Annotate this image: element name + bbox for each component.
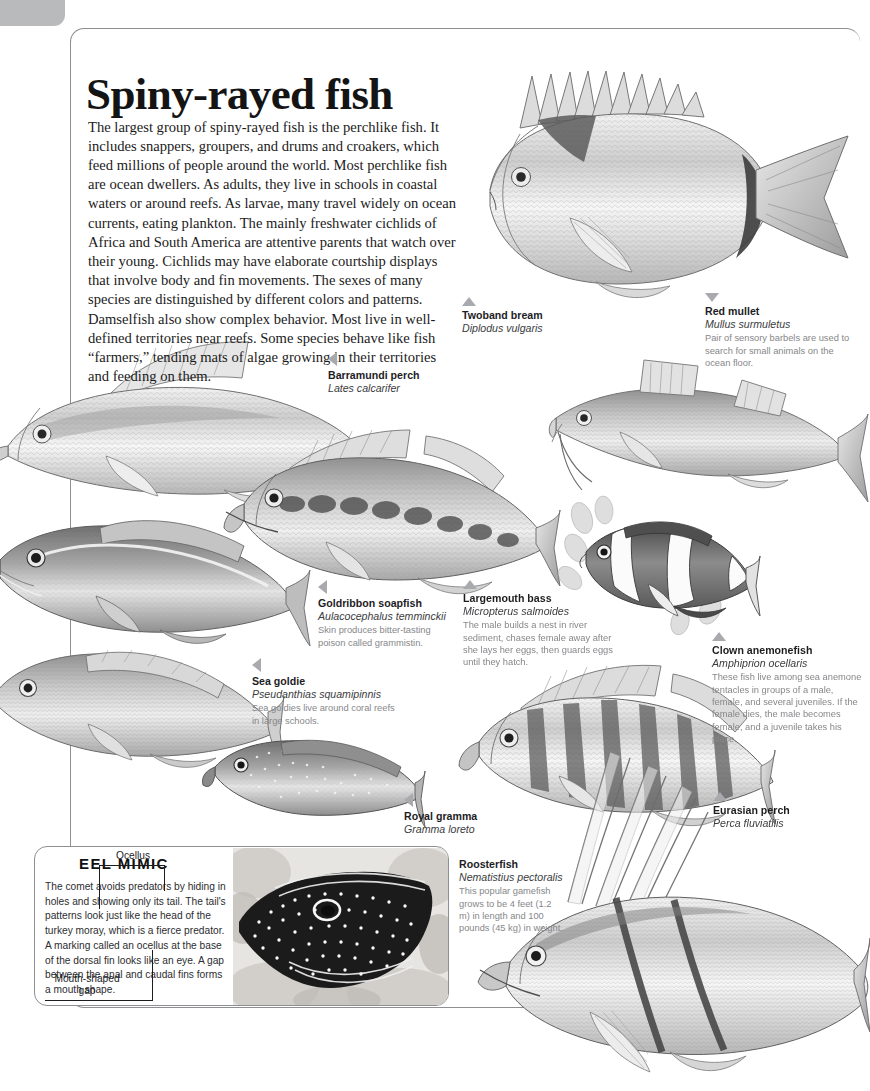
caption-common-name: Barramundi perch <box>328 369 478 382</box>
annotation-mouth-gap-label: Mouth-shaped gap <box>45 973 129 997</box>
caption-latin-name: Gramma loreto <box>404 823 554 836</box>
caption-common-name: Clown anemonefish <box>712 644 862 657</box>
caption-note: This popular gamefish grows to be 4 feet… <box>459 885 564 934</box>
caption-note: These fish live among sea anemone tentac… <box>712 671 862 745</box>
caption-arrow-up-icon <box>712 632 726 641</box>
comet-fish-photo <box>233 848 449 1006</box>
caption-arrow-up-icon <box>462 297 476 306</box>
caption-latin-name: Mullus surmuletus <box>705 318 855 331</box>
caption-royal-gramma: Royal gramma Gramma loreto <box>404 793 554 836</box>
caption-goldribbon-soapfish: Goldribbon soapfish Aulacocephalus temmi… <box>318 580 453 649</box>
caption-common-name: Largemouth bass <box>463 592 613 605</box>
caption-common-name: Goldribbon soapfish <box>318 597 453 610</box>
caption-common-name: Eurasian perch <box>713 804 863 817</box>
eel-mimic-sidebar: EEL MIMIC The comet avoids predators by … <box>34 846 449 1006</box>
annotation-ocellus-leader-h <box>99 865 165 866</box>
caption-common-name: Royal gramma <box>404 810 554 823</box>
caption-sea-goldie: Sea goldie Pseudanthias squamipinnis Sea… <box>252 658 402 727</box>
caption-red-mullet: Red mullet Mullus surmuletus Pair of sen… <box>705 293 855 369</box>
caption-note: Pair of sensory barbels are used to sear… <box>705 332 855 369</box>
caption-latin-name: Aulacocephalus temminckii <box>318 610 453 623</box>
caption-latin-name: Nematistius pectoralis <box>459 871 564 884</box>
caption-arrow-left-icon <box>328 352 337 366</box>
page-corner-tab <box>0 0 65 26</box>
caption-twoband-bream: Twoband bream Diplodus vulgaris <box>462 297 627 335</box>
caption-eurasian-perch: Eurasian perch Perca fluviatilis <box>713 792 863 830</box>
caption-arrow-down-icon <box>705 293 719 302</box>
caption-barramundi-perch: Barramundi perch Lates calcarifer <box>328 352 478 395</box>
annotation-ocellus-leader-v2 <box>164 865 165 891</box>
caption-common-name: Twoband bream <box>462 309 627 322</box>
caption-clown-anemonefish: Clown anemonefish Amphiprion ocellaris T… <box>712 632 862 745</box>
caption-largemouth-bass: Largemouth bass Micropterus salmoides Th… <box>463 580 613 669</box>
caption-latin-name: Micropterus salmoides <box>463 605 613 618</box>
annotation-mouth-gap-leader-v <box>152 950 153 1001</box>
caption-note: Sea goldies live around coral reefs in l… <box>252 702 402 727</box>
intro-paragraph: The largest group of spiny-rayed fish is… <box>88 118 460 387</box>
caption-arrow-up-icon <box>713 792 727 801</box>
caption-latin-name: Lates calcarifer <box>328 382 478 395</box>
annotation-ocellus-label: Ocellus <box>100 850 166 862</box>
caption-roosterfish: Roosterfish Nematistius pectoralis This … <box>459 858 564 935</box>
caption-arrow-left-icon <box>404 793 413 807</box>
caption-common-name: Sea goldie <box>252 675 402 688</box>
fish-illustration-royal-gramma <box>205 715 425 835</box>
caption-arrow-up-icon <box>463 580 477 589</box>
annotation-ocellus-leader-v1 <box>99 865 100 909</box>
fish-illustration-red-mullet <box>548 352 868 512</box>
page-title: Spiny-rayed fish <box>86 72 506 117</box>
caption-common-name: Red mullet <box>705 305 855 318</box>
caption-arrow-left-icon <box>252 658 261 672</box>
caption-common-name: Roosterfish <box>459 858 564 871</box>
caption-latin-name: Perca fluviatilis <box>713 817 863 830</box>
caption-arrow-left-icon <box>318 580 327 594</box>
annotation-mouth-gap-leader-h <box>45 1000 153 1001</box>
caption-latin-name: Diplodus vulgaris <box>462 322 627 335</box>
caption-latin-name: Pseudanthias squamipinnis <box>252 688 402 701</box>
caption-note: Skin produces bitter-tasting poison call… <box>318 624 453 649</box>
caption-note: The male builds a nest in river sediment… <box>463 619 613 668</box>
caption-latin-name: Amphiprion ocellaris <box>712 657 862 670</box>
